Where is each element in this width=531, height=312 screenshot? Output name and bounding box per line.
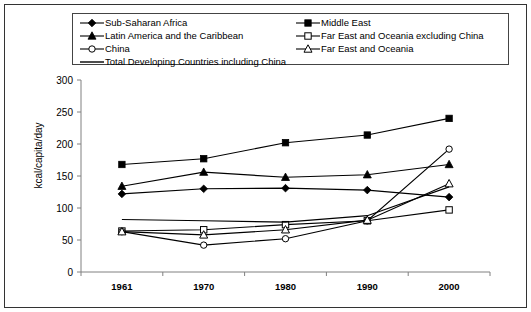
x-axis-tick-label: 1961 (111, 281, 133, 292)
x-axis-tick-label: 1970 (193, 281, 214, 292)
y-axis-tick-label: 100 (56, 203, 73, 214)
data-point (364, 186, 372, 194)
data-point (446, 146, 452, 152)
chart-figure: Sub-Saharan AfricaLatin America and the … (0, 0, 531, 312)
plot-area: 05010015020025030019611970198019902000 (0, 0, 531, 312)
series-middle-east (119, 115, 453, 167)
data-point (445, 193, 453, 201)
series-sub-saharan-africa (118, 184, 453, 201)
data-point (282, 184, 290, 192)
x-axis-tick-label: 2000 (439, 281, 460, 292)
data-point (200, 168, 208, 175)
y-axis-tick-label: 300 (56, 75, 73, 86)
y-axis-tick-label: 50 (62, 235, 74, 246)
y-axis-tick-label: 250 (56, 107, 73, 118)
x-axis-tick-label: 1990 (357, 281, 378, 292)
y-axis-tick-label: 200 (56, 139, 73, 150)
data-point (445, 160, 453, 167)
data-point (446, 115, 452, 121)
data-point (364, 132, 370, 138)
x-axis-tick-label: 1980 (275, 281, 296, 292)
data-point (119, 161, 125, 167)
data-point (282, 236, 288, 242)
data-point (446, 207, 452, 213)
data-series (118, 115, 453, 248)
y-axis-label: kcal/capita/day (33, 96, 44, 216)
y-axis-tick-label: 150 (56, 171, 73, 182)
data-point (282, 140, 288, 146)
data-point (201, 242, 207, 248)
data-point (200, 185, 208, 193)
data-point (201, 156, 207, 162)
y-axis-tick-label: 0 (67, 267, 73, 278)
data-point (445, 179, 453, 186)
data-point (118, 190, 126, 198)
